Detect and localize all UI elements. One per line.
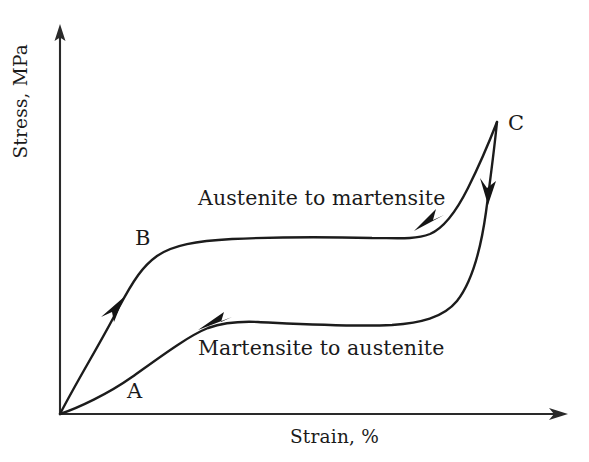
loading-curve-group xyxy=(60,122,497,414)
stress-axis-label: Stress, MPa xyxy=(12,44,31,158)
unloading-falling-arrowhead xyxy=(480,178,496,205)
unloading-curve-group xyxy=(60,122,497,414)
point-label-a: A xyxy=(127,381,142,402)
annotation-martensite-to-austenite: Martensite to austenite xyxy=(198,338,444,359)
stress-strain-figure: A B C Austenite to martensite Martensite… xyxy=(0,0,589,462)
loading-curve-path xyxy=(60,122,497,414)
annotation-austenite-to-martensite: Austenite to martensite xyxy=(198,188,445,209)
unloading-curve-path xyxy=(60,122,497,414)
strain-axis-label: Strain, % xyxy=(290,428,379,447)
point-label-c: C xyxy=(508,113,524,134)
point-label-b: B xyxy=(135,228,150,249)
hysteresis-chart-svg xyxy=(0,0,589,462)
unloading-plateau-arrowhead xyxy=(198,312,232,330)
axes-group xyxy=(55,24,569,420)
